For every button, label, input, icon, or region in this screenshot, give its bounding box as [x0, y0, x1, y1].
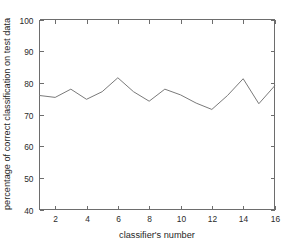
data-series-line: [40, 78, 275, 110]
x-tick-label: 8: [147, 214, 152, 224]
x-tick-label: 10: [177, 214, 187, 224]
x-tick-label: 2: [53, 214, 58, 224]
x-axis-ticks: [56, 20, 276, 210]
y-tick-label: 60: [24, 142, 34, 152]
y-axis-tick-labels: 405060708090100: [20, 16, 34, 216]
x-tick-label: 14: [239, 214, 249, 224]
y-axis-title: percentage of correct classification on …: [2, 17, 12, 210]
y-tick-label: 90: [24, 47, 34, 57]
line-chart: 405060708090100 246810121416 classifier'…: [0, 0, 286, 246]
x-tick-label: 16: [271, 214, 281, 224]
x-axis-tick-labels: 246810121416: [53, 214, 280, 224]
chart-figure: 405060708090100 246810121416 classifier'…: [0, 0, 286, 246]
y-tick-label: 50: [24, 174, 34, 184]
x-tick-label: 12: [208, 214, 218, 224]
y-tick-label: 80: [24, 79, 34, 89]
x-tick-label: 6: [116, 214, 121, 224]
y-tick-label: 70: [24, 111, 34, 121]
x-axis-title: classifier's number: [119, 230, 195, 240]
y-tick-label: 40: [24, 206, 34, 216]
x-tick-label: 4: [85, 214, 90, 224]
y-axis-ticks: [40, 21, 275, 211]
y-tick-label: 100: [20, 16, 34, 26]
axis-frame: [40, 20, 275, 210]
